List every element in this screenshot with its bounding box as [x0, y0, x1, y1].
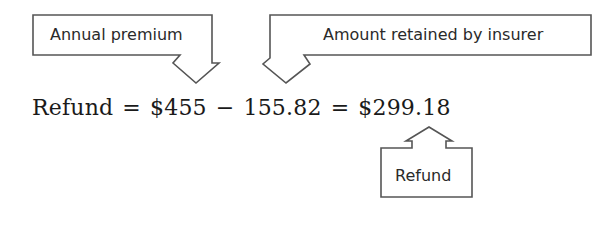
equals-sign: =	[122, 97, 141, 119]
retained-value: 155.82	[243, 97, 321, 119]
refund-callout-outline	[381, 127, 472, 197]
minus-sign: −	[216, 97, 235, 119]
annual-premium-label: Annual premium	[50, 27, 183, 43]
refund-label: Refund	[395, 168, 451, 184]
equation-lhs: Refund	[32, 97, 113, 119]
refund-equation: Refund=$455−155.82=$299.18	[32, 97, 451, 119]
amount-retained-label: Amount retained by insurer	[323, 27, 543, 43]
premium-value: $455	[150, 97, 207, 119]
equals-sign-2: =	[331, 97, 350, 119]
refund-result: $299.18	[358, 97, 450, 119]
